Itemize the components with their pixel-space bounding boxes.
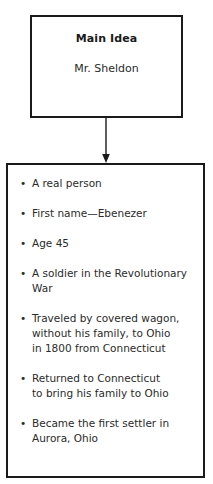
list-item-text: Age 45 <box>32 236 194 251</box>
list-item-text: A real person <box>32 176 194 191</box>
graphic-organizer: Main Idea Mr. Sheldon • A real person • … <box>0 0 213 484</box>
list-item-text: A soldier in the Revolutionary War <box>32 266 194 296</box>
bullet-icon: • <box>20 416 26 431</box>
down-arrow-icon <box>99 118 113 164</box>
main-idea-subject: Mr. Sheldon <box>74 62 138 75</box>
bullet-icon: • <box>20 206 26 221</box>
list-item-text: Traveled by covered wagon, without his f… <box>32 311 194 356</box>
list-item: • First name—Ebenezer <box>17 206 194 221</box>
list-item: • Age 45 <box>17 236 194 251</box>
connector <box>99 118 113 164</box>
main-idea-title: Main Idea <box>76 32 138 45</box>
list-item-text: First name—Ebenezer <box>32 206 194 221</box>
list-item: • Returned to Connecticut to bring his f… <box>17 371 194 401</box>
bullet-icon: • <box>20 311 26 326</box>
bullet-icon: • <box>20 236 26 251</box>
bullet-icon: • <box>20 266 26 281</box>
bullet-icon: • <box>20 371 26 386</box>
list-item-text: Became the first settler in Aurora, Ohio <box>32 416 194 446</box>
list-item: • Traveled by covered wagon, without his… <box>17 311 194 356</box>
details-box: • A real person • First name—Ebenezer • … <box>6 163 205 478</box>
list-item-text: Returned to Connecticut to bring his fam… <box>32 371 194 401</box>
details-list: • A real person • First name—Ebenezer • … <box>17 176 194 446</box>
list-item: • A soldier in the Revolutionary War <box>17 266 194 296</box>
main-idea-box: Main Idea Mr. Sheldon <box>30 15 183 118</box>
bullet-icon: • <box>20 176 26 191</box>
list-item: • Became the first settler in Aurora, Oh… <box>17 416 194 446</box>
list-item: • A real person <box>17 176 194 191</box>
